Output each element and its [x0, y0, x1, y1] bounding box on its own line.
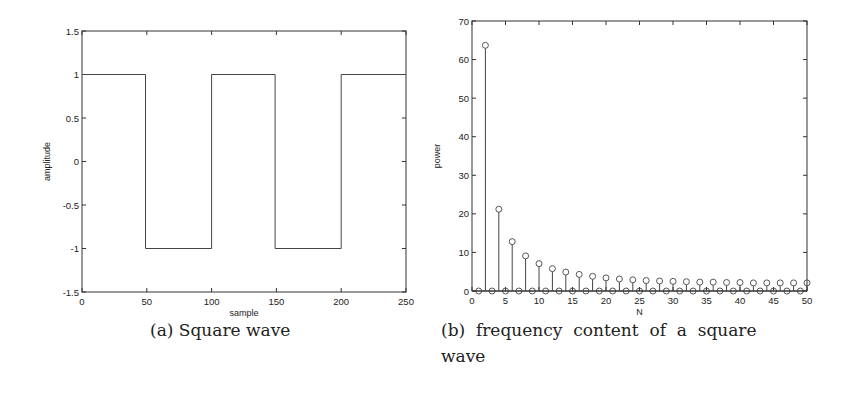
stem-marker: [536, 261, 542, 267]
y-tick-label: 20: [458, 208, 469, 219]
stem-marker: [724, 280, 730, 286]
stem-marker: [616, 276, 622, 282]
y-tick-label: 0.5: [66, 113, 79, 124]
y-tick-label: 0: [74, 156, 79, 167]
x-tick-label: 200: [333, 296, 349, 307]
axes-frame: [472, 21, 807, 291]
stem-marker: [697, 279, 703, 285]
axes-frame: [82, 31, 406, 292]
x-tick-label: 30: [668, 295, 679, 306]
y-tick-label: 1.5: [66, 26, 79, 37]
caption-b-line1: (b) frequency content of a square: [441, 318, 757, 342]
stem-marker: [630, 277, 636, 283]
stem-marker: [509, 239, 515, 245]
stem-marker: [576, 271, 582, 277]
x-tick-label: 100: [204, 296, 220, 307]
stem-marker: [737, 280, 743, 286]
stem-marker: [643, 278, 649, 284]
y-axis-label: amplitude: [42, 142, 52, 181]
y-tick-label: 60: [458, 54, 469, 65]
x-tick-label: 40: [735, 295, 746, 306]
stem-marker: [683, 279, 689, 285]
x-tick-label: 250: [398, 296, 414, 307]
y-tick-label: -1: [71, 243, 79, 254]
stem-marker: [670, 278, 676, 284]
x-axis-label: N: [636, 307, 643, 317]
stem-marker: [603, 275, 609, 281]
stem-marker: [523, 253, 529, 259]
x-tick-label: 10: [534, 295, 545, 306]
x-tick-label: 25: [634, 295, 645, 306]
square-wave-line: [82, 75, 406, 249]
y-tick-label: -1.5: [63, 287, 79, 298]
frequency-stem-plot: 05101520253035404550010203040506070Npowe…: [432, 16, 812, 318]
caption-b-line2: wave: [441, 344, 485, 368]
x-axis-label: sample: [229, 308, 258, 318]
stem-marker: [549, 266, 555, 272]
square-wave-plot: 050100150200250-1.5-1-0.500.511.5samplea…: [42, 26, 414, 319]
x-tick-label: 50: [142, 296, 153, 307]
stem-marker: [764, 280, 770, 286]
y-tick-label: 40: [458, 131, 469, 142]
y-tick-label: -0.5: [63, 200, 79, 211]
stem-marker: [482, 42, 488, 48]
y-tick-label: 70: [458, 16, 469, 27]
x-tick-label: 35: [701, 295, 712, 306]
y-tick-label: 50: [458, 93, 469, 104]
x-tick-label: 150: [268, 296, 284, 307]
x-tick-label: 20: [601, 295, 612, 306]
stem-marker: [590, 273, 596, 279]
x-tick-label: 50: [802, 295, 813, 306]
stem-marker: [750, 280, 756, 286]
stem-marker: [710, 279, 716, 285]
figure: 050100150200250-1.5-1-0.500.511.5samplea…: [0, 0, 854, 405]
x-tick-label: 45: [768, 295, 779, 306]
stem-marker: [496, 206, 502, 212]
stem-marker: [791, 280, 797, 286]
y-tick-label: 0: [464, 286, 469, 297]
x-tick-label: 15: [567, 295, 578, 306]
x-tick-label: 0: [79, 296, 84, 307]
stem-marker: [657, 278, 663, 284]
y-tick-label: 1: [74, 69, 79, 80]
y-axis-label: power: [432, 144, 442, 169]
x-tick-label: 0: [469, 295, 474, 306]
stem-marker: [563, 269, 569, 275]
stem-marker: [777, 280, 783, 286]
x-tick-label: 5: [503, 295, 508, 306]
y-tick-label: 30: [458, 170, 469, 181]
y-tick-label: 10: [458, 247, 469, 258]
caption-a: (a) Square wave: [150, 318, 290, 342]
